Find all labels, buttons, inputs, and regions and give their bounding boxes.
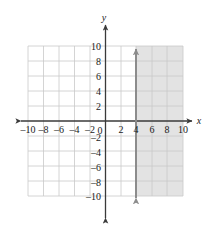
y-tick-label: –4 (90, 147, 101, 158)
y-tick-label: –10 (85, 191, 101, 202)
plot-area: –10 –8 –6 –4 –2 0 2 4 6 8 10 10 8 6 4 2 … (0, 0, 212, 226)
y-tick-label: 10 (91, 41, 101, 52)
y-tick-label: –2 (90, 132, 101, 143)
x-tick-label: 4 (134, 124, 139, 135)
x-tick-label: –4 (69, 124, 80, 135)
x-tick-label: –6 (53, 124, 64, 135)
x-tick-label: –8 (38, 124, 49, 135)
y-tick-label: 8 (96, 56, 101, 67)
y-tick-label: 2 (96, 101, 101, 112)
y-tick-label: 6 (96, 71, 101, 82)
x-tick-label: –10 (20, 124, 36, 135)
x-tick-label: 2 (119, 124, 124, 135)
x-tick-label: 6 (150, 124, 155, 135)
y-axis-label: y (101, 12, 107, 23)
y-tick-label: –8 (90, 177, 101, 188)
y-tick-label: 4 (96, 86, 101, 97)
x-tick-label: 10 (178, 124, 188, 135)
x-axis-label: x (196, 115, 202, 126)
x-tick-label: 8 (165, 124, 170, 135)
coordinate-plane-graph: –10 –8 –6 –4 –2 0 2 4 6 8 10 10 8 6 4 2 … (0, 0, 212, 226)
y-tick-label: –6 (90, 162, 101, 173)
